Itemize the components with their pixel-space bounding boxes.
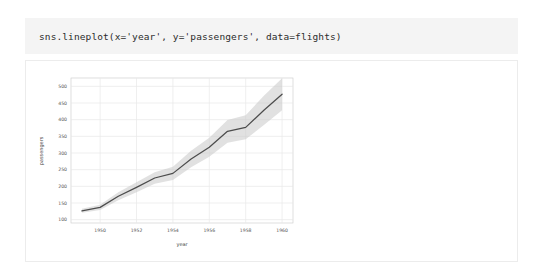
y-tick-label: 450	[58, 101, 67, 106]
y-tick-labels: 100150200250300350400450500	[58, 84, 67, 222]
x-tick-label: 1960	[276, 228, 288, 233]
x-tick-label: 1958	[240, 228, 252, 233]
axes-frame	[71, 78, 293, 223]
x-tick-label: 1956	[203, 228, 215, 233]
x-tick-label: 1952	[131, 228, 143, 233]
y-tick-label: 200	[58, 184, 67, 189]
x-tick-label: 1954	[167, 228, 179, 233]
y-tick-label: 400	[58, 117, 67, 122]
y-tick-label: 350	[58, 134, 67, 139]
code-input-cell[interactable]: sns.lineplot(x='year', y='passengers', d…	[25, 18, 518, 54]
matplotlib-figure: 100150200250300350400450500 195019521954…	[31, 66, 326, 254]
y-tick-label: 500	[58, 84, 67, 89]
y-tick-label: 250	[58, 167, 67, 172]
y-tick-label: 150	[58, 201, 67, 206]
notebook-container: sns.lineplot(x='year', y='passengers', d…	[0, 0, 542, 279]
x-tick-labels: 195019521954195619581960	[94, 228, 288, 233]
y-axis-title: passengers	[38, 136, 45, 165]
x-tick-label: 1950	[94, 228, 106, 233]
y-tick-label: 100	[58, 217, 67, 222]
plot-axes-area: 100150200250300350400450500 195019521954…	[38, 78, 293, 248]
lineplot-svg: 100150200250300350400450500 195019521954…	[31, 66, 326, 254]
x-axis-title: year	[176, 241, 188, 248]
code-source-text: sns.lineplot(x='year', y='passengers', d…	[25, 31, 342, 42]
cell-output-area: 100150200250300350400450500 195019521954…	[25, 60, 518, 262]
y-tick-label: 300	[58, 151, 67, 156]
